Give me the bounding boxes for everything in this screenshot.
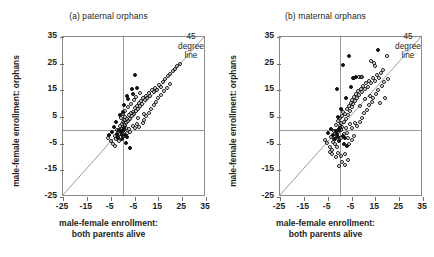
data-point — [329, 127, 333, 131]
y-tick-label: 5 — [246, 110, 274, 120]
y-tick-label: 5 — [29, 110, 57, 120]
y-tick-label: 35 — [246, 30, 274, 40]
data-point — [154, 100, 158, 104]
x-tick-label: -5 — [121, 201, 147, 211]
y-tick-label: 15 — [29, 83, 57, 93]
data-point — [386, 77, 390, 81]
data-point — [350, 138, 354, 142]
data-point — [140, 102, 144, 106]
x-tick-label: 15 — [144, 201, 170, 211]
data-point — [133, 126, 137, 130]
y-tick-label: 25 — [246, 57, 274, 67]
y-tick-mark — [60, 37, 64, 38]
x-tick-label: -5 — [97, 201, 123, 211]
x-axis-label-a: male-female enrollment: both parents ali… — [0, 218, 217, 240]
x-tick-label: -25 — [266, 201, 292, 211]
x-tick-label: -5 — [314, 201, 340, 211]
y-axis-label-b: male-female enrollment: orphans — [228, 36, 238, 206]
panel-b-title: (b) maternal orphans — [217, 11, 434, 21]
data-point — [380, 84, 384, 88]
data-point — [178, 62, 182, 66]
y-tick-mark — [277, 170, 281, 171]
x-tick-label: -25 — [49, 201, 75, 211]
y-tick-mark — [60, 170, 64, 171]
y-tick-label: -25 — [246, 190, 274, 200]
y-tick-mark — [277, 117, 281, 118]
data-point — [350, 126, 354, 130]
x-axis-label-b: male-female enrollment: both parents ali… — [217, 218, 434, 240]
y-tick-label: 15 — [246, 83, 274, 93]
annotation-45-degree-b: 45 degree line — [385, 32, 431, 61]
y-tick-mark — [277, 37, 281, 38]
data-point — [370, 100, 374, 104]
data-point — [165, 86, 169, 90]
x-axis-label-line-1: male-female enrollment: — [0, 218, 217, 229]
data-point — [348, 109, 352, 113]
data-point — [347, 54, 351, 58]
x-tick-label: 35 — [409, 201, 434, 211]
annotation-45-degree-a: 45 degree line — [168, 32, 214, 61]
x-tick-label: 35 — [192, 201, 218, 211]
figure-root: (a) paternal orphans male-female enrollm… — [0, 0, 434, 257]
x-tick-label: -5 — [338, 201, 364, 211]
annot-line-3: line — [385, 51, 431, 61]
data-point — [368, 94, 372, 98]
x-tick-label: -15 — [73, 201, 99, 211]
data-point — [142, 118, 146, 122]
data-point — [334, 129, 338, 133]
data-point — [338, 126, 342, 130]
data-point — [344, 117, 348, 121]
panel-paternal-orphans: (a) paternal orphans male-female enrollm… — [0, 0, 217, 257]
data-point — [346, 158, 350, 162]
data-point — [120, 137, 124, 141]
data-point — [142, 112, 146, 116]
data-point — [358, 104, 362, 108]
data-point — [135, 86, 139, 90]
data-point — [367, 103, 371, 107]
y-axis-label-a: male-female enrollment: orphans — [11, 36, 21, 206]
y-tick-mark — [60, 90, 64, 91]
data-point — [107, 133, 111, 137]
y-tick-mark — [277, 144, 281, 145]
data-point — [328, 150, 332, 154]
data-point — [136, 116, 140, 120]
y-tick-label: -15 — [29, 163, 57, 173]
data-point — [378, 101, 382, 105]
data-point — [339, 107, 343, 111]
y-tick-label: 25 — [29, 57, 57, 67]
y-tick-label: -5 — [29, 137, 57, 147]
panel-maternal-orphans: (b) maternal orphans male-female enrollm… — [217, 0, 434, 257]
y-tick-mark — [60, 144, 64, 145]
data-point — [381, 68, 385, 72]
data-point — [323, 138, 327, 142]
x-tick-label: 15 — [361, 201, 387, 211]
data-point — [147, 111, 151, 115]
x-axis-label-line-2: both parents alive — [0, 229, 217, 240]
x-axis-label-line-1: male-female enrollment: — [217, 218, 434, 229]
data-point — [109, 139, 113, 143]
data-point — [148, 94, 152, 98]
data-point — [128, 130, 132, 134]
y-tick-label: -25 — [29, 190, 57, 200]
data-point — [335, 87, 339, 91]
data-point — [334, 155, 338, 159]
data-point — [355, 124, 359, 128]
data-point — [130, 87, 134, 91]
x-axis-label-line-2: both parents alive — [217, 229, 434, 240]
data-point — [121, 110, 125, 114]
panel-a-title: (a) paternal orphans — [0, 11, 217, 21]
data-point — [358, 120, 362, 124]
data-point — [360, 116, 364, 120]
x-tick-label: 25 — [168, 201, 194, 211]
y-tick-mark — [60, 64, 64, 65]
y-tick-label: -5 — [246, 137, 274, 147]
y-tick-mark — [277, 64, 281, 65]
data-point — [137, 125, 141, 129]
y-tick-mark — [60, 117, 64, 118]
data-point — [122, 126, 126, 130]
data-point — [376, 88, 380, 92]
x-tick-label: 25 — [385, 201, 411, 211]
data-point — [343, 152, 347, 156]
data-point — [337, 139, 341, 143]
data-point — [366, 85, 370, 89]
